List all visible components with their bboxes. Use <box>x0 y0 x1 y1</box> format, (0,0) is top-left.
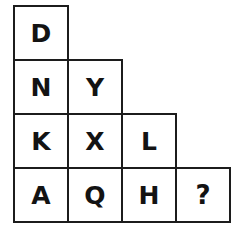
grid-cell-r4c3[interactable]: H <box>121 167 177 223</box>
grid-cell-r4c1[interactable]: A <box>13 167 69 223</box>
cell-letter: D <box>31 21 52 46</box>
grid-cell-r2c2[interactable]: Y <box>67 59 123 115</box>
letter-grid: D N Y K X L A <box>13 5 229 221</box>
grid-cell-r3c3[interactable]: L <box>121 113 177 169</box>
grid-cell-r3c1[interactable]: K <box>13 113 69 169</box>
cell-letter: L <box>141 129 157 154</box>
grid-cell-r4c2[interactable]: Q <box>67 167 123 223</box>
cell-letter: N <box>31 75 52 100</box>
grid-cell-r4c4-unknown[interactable]: ? <box>175 167 231 223</box>
grid-row-2: N Y <box>13 59 229 113</box>
cell-letter: A <box>31 183 50 208</box>
grid-cell-r1c1[interactable]: D <box>13 5 69 61</box>
cell-letter: X <box>85 129 104 154</box>
question-mark-icon: ? <box>195 182 210 208</box>
grid-row-1: D <box>13 5 229 59</box>
cell-letter: K <box>31 129 50 154</box>
grid-row-4: A Q H ? <box>13 167 229 221</box>
grid-cell-r3c2[interactable]: X <box>67 113 123 169</box>
grid-row-3: K X L <box>13 113 229 167</box>
cell-letter: Q <box>84 183 105 208</box>
grid-cell-r2c1[interactable]: N <box>13 59 69 115</box>
cell-letter: H <box>139 183 160 208</box>
cell-letter: Y <box>86 75 104 100</box>
puzzle-canvas: D N Y K X L A <box>0 0 248 247</box>
